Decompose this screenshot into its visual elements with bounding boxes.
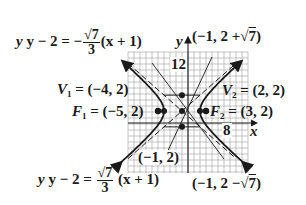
v1-name: V: [57, 81, 67, 97]
sqrt-sign: √: [240, 28, 248, 44]
sqrt-sign: √: [240, 175, 248, 191]
asymptote-upper-slope: √73: [83, 28, 100, 57]
y-axis-label: y: [176, 34, 183, 49]
v2-sub: 2: [232, 90, 237, 100]
conj-bottom-pre: (−1, 2 −: [192, 175, 240, 191]
asymptote-lower-rhs: (x + 1): [118, 171, 159, 187]
f1-name: F: [72, 103, 82, 119]
slope-numerator: √7: [97, 166, 114, 181]
focus-1-point: [155, 108, 161, 114]
conj-top-post: ): [256, 28, 261, 44]
f2-sub: 2: [220, 111, 225, 121]
v1-sub: 1: [67, 89, 72, 99]
conj-bottom-post: ): [256, 175, 261, 191]
v2-name: V: [222, 82, 232, 98]
f2-name: F: [210, 103, 220, 119]
asymptote-lower-equation: y y − 2 = √73 (x + 1): [38, 166, 159, 195]
f1-sub: 1: [82, 111, 87, 121]
vertex-2-label: V2 = (2, 2): [222, 83, 285, 100]
asymptote-lower-slope: √73: [97, 166, 114, 195]
y-tick-label: 12: [170, 57, 187, 72]
v2-coords: = (2, 2): [240, 82, 285, 98]
slope-numerator: √7: [83, 28, 100, 43]
conjugate-point-bottom-label: (−1, 2 −√7): [192, 176, 261, 191]
f2-coords: = (3, 2): [228, 103, 273, 119]
slope-denominator: 3: [97, 181, 114, 195]
asymptote-lower-lhs: y − 2 =: [48, 171, 91, 187]
focus-1-label: F1 = (−5, 2): [72, 104, 144, 121]
conj-top-root: 7: [249, 28, 257, 44]
asymptote-upper-lhs: y − 2 = −: [26, 33, 82, 49]
x-axis-label: x: [250, 124, 258, 139]
x-tick-label: 8: [222, 123, 232, 138]
hyperbola-diagram: y y − 2 = −√73(x + 1) y (−1, 2 +√7) 12 V…: [0, 0, 306, 205]
conjugate-point-1: [179, 92, 185, 98]
conjugate-point-top-label: (−1, 2 +√7): [192, 29, 261, 44]
focus-2-point: [203, 108, 209, 114]
f1-coords: = (−5, 2): [90, 103, 143, 119]
vertex-2-point: [197, 108, 203, 114]
conjugate-point-2: [179, 124, 185, 130]
vertex-1-label: V1 = (−4, 2): [57, 82, 129, 99]
center-point: [179, 108, 185, 114]
center-label: (−1, 2): [138, 150, 179, 165]
conj-bottom-root: 7: [249, 175, 257, 191]
slope-denominator: 3: [83, 43, 100, 57]
asymptote-upper-rhs: (x + 1): [101, 33, 142, 49]
conj-top-pre: (−1, 2 +: [192, 28, 240, 44]
v1-coords: = (−4, 2): [75, 81, 128, 97]
focus-2-label: F2 = (3, 2): [210, 104, 273, 121]
asymptote-upper-equation: y y − 2 = −√73(x + 1): [16, 28, 142, 57]
vertex-1-point: [161, 108, 167, 114]
